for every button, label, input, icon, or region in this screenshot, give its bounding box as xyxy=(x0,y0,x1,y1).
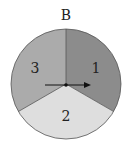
sector-label-2: 2 xyxy=(62,108,71,124)
spinner-diagram: 123 xyxy=(0,0,128,144)
center-pivot-icon xyxy=(64,83,68,87)
sector-label-3: 3 xyxy=(31,60,40,76)
sector-label-1: 1 xyxy=(92,60,101,76)
